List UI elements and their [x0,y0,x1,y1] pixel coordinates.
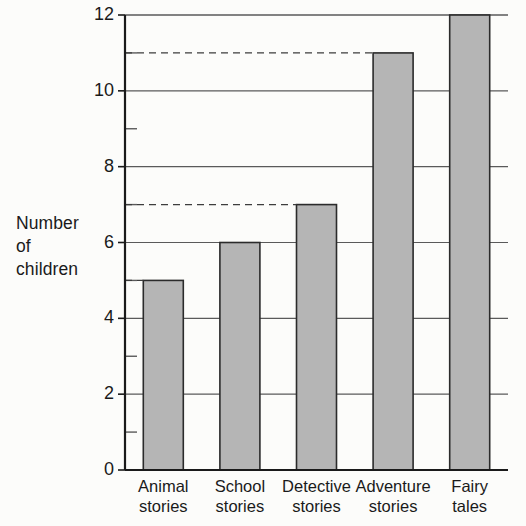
bar-adventure-stories [373,53,413,470]
x-category-line-2: stories [351,496,436,516]
bar-detective-stories [297,205,337,470]
y-tick-label-2: 2 [88,383,114,404]
x-category-line-1: Fairy [427,476,512,496]
x-category-label-4: Adventurestories [351,476,436,516]
y-tick-label-0: 0 [88,459,114,480]
x-category-line-1: School [198,476,283,496]
x-category-label-3: Detectivestories [274,476,359,516]
x-category-line-1: Adventure [351,476,436,496]
bar-fairy-tales [450,15,490,470]
x-category-line-1: Animal [121,476,206,496]
bar-animal-stories [143,280,183,470]
x-category-line-1: Detective [274,476,359,496]
x-category-line-2: tales [427,496,512,516]
x-category-line-2: stories [274,496,359,516]
y-axis-label-line-3: children [16,258,108,281]
x-category-label-1: Animalstories [121,476,206,516]
x-category-label-2: Schoolstories [198,476,283,516]
y-tick-label-10: 10 [88,80,114,101]
x-category-line-2: stories [121,496,206,516]
x-category-line-2: stories [198,496,283,516]
y-tick-label-4: 4 [88,307,114,328]
bar-school-stories [220,243,260,471]
x-category-label-5: Fairytales [427,476,512,516]
bar-chart-figure: Number of children 121086420 Animalstori… [0,0,526,526]
y-tick-label-6: 6 [88,232,114,253]
y-tick-label-12: 12 [88,4,114,25]
y-tick-label-8: 8 [88,156,114,177]
